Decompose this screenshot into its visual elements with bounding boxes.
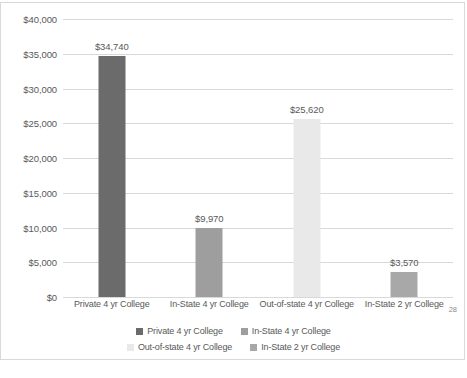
legend-label: Private 4 yr College — [147, 326, 223, 336]
x-axis-tick-label-instate-4yr: In-State 4 yr College — [161, 299, 259, 309]
gridline-0-baseline — [63, 297, 453, 298]
legend-swatch-icon — [241, 328, 248, 335]
bar-instate-4yr[interactable] — [196, 228, 223, 297]
legend-item-instate-4yr[interactable]: In-State 4 yr College — [241, 326, 331, 336]
y-axis-tick-label: $5,000 — [29, 257, 57, 268]
y-axis-tick-label: $30,000 — [23, 83, 57, 94]
y-axis-tick-label: $20,000 — [23, 153, 57, 164]
x-axis-tick-label-instate-2yr: In-State 2 yr College — [356, 299, 454, 309]
chart-legend: Private 4 yr College In-State 4 yr Colle… — [1, 323, 466, 355]
page-number: 28 — [449, 305, 457, 314]
y-axis-tick-label: $40,000 — [23, 14, 57, 25]
bar-outofstate-4yr[interactable] — [293, 119, 320, 297]
bar-private-4yr[interactable] — [98, 56, 125, 297]
legend-row-2: Out-of-state 4 yr College In-State 2 yr … — [1, 339, 466, 355]
legend-swatch-icon — [127, 344, 134, 351]
legend-row-1: Private 4 yr College In-State 4 yr Colle… — [1, 323, 466, 339]
bar-group-instate-2yr: $3,570 — [356, 19, 454, 297]
chart-container: $40,000 $35,000 $30,000 $25,000 $20,000 … — [0, 2, 465, 360]
y-axis-tick-label: $15,000 — [23, 187, 57, 198]
y-axis-tick-label: $0 — [47, 292, 57, 303]
legend-label: In-State 4 yr College — [252, 326, 331, 336]
bar-value-label: $3,570 — [390, 257, 418, 268]
x-axis-tick-label-outofstate-4yr: Out-of-state 4 yr College — [258, 299, 356, 309]
legend-swatch-icon — [250, 344, 257, 351]
legend-item-instate-2yr[interactable]: In-State 2 yr College — [250, 342, 340, 352]
y-axis-tick-label: $35,000 — [23, 48, 57, 59]
legend-item-private-4yr[interactable]: Private 4 yr College — [136, 326, 223, 336]
bar-group-outofstate-4yr: $25,620 — [258, 19, 356, 297]
y-axis-tick-label: $10,000 — [23, 222, 57, 233]
bar-instate-2yr[interactable] — [391, 272, 418, 297]
bar-group-private-4yr: $34,740 — [63, 19, 161, 297]
bar-group-instate-4yr: $9,970 — [161, 19, 259, 297]
bar-value-label: $9,970 — [195, 213, 223, 224]
legend-item-outofstate-4yr[interactable]: Out-of-state 4 yr College — [127, 342, 232, 352]
legend-label: In-State 2 yr College — [261, 342, 340, 352]
x-axis-tick-label-private-4yr: Private 4 yr College — [63, 299, 161, 309]
y-axis-tick-label: $25,000 — [23, 118, 57, 129]
bar-value-label: $34,740 — [95, 41, 129, 52]
bar-value-label: $25,620 — [290, 104, 324, 115]
x-axis-labels: Private 4 yr College In-State 4 yr Colle… — [63, 299, 453, 315]
legend-label: Out-of-state 4 yr College — [138, 342, 232, 352]
legend-swatch-icon — [136, 328, 143, 335]
plot-area: $40,000 $35,000 $30,000 $25,000 $20,000 … — [63, 19, 453, 297]
